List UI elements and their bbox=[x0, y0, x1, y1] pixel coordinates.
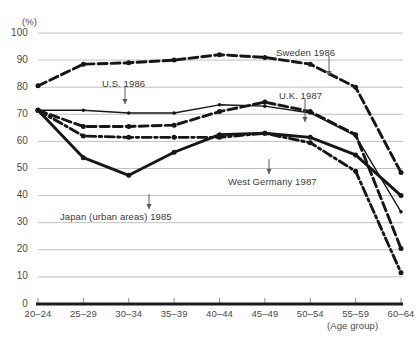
data-point-marker bbox=[399, 246, 404, 251]
data-point-marker bbox=[217, 132, 222, 137]
y-axis-tick-label: 70 bbox=[2, 108, 28, 119]
annotation-arrow-head bbox=[146, 204, 151, 209]
data-point-marker bbox=[399, 270, 404, 275]
data-point-marker bbox=[36, 108, 41, 113]
series-annotation-label: Japan (urban areas) 1985 bbox=[60, 211, 172, 222]
line-chart: (%) 0102030405060708090100 20–2425–2930–… bbox=[0, 0, 419, 342]
data-point-marker bbox=[217, 109, 222, 114]
data-point-marker bbox=[81, 133, 86, 138]
x-axis-tick-label: 45–49 bbox=[241, 308, 289, 319]
data-point-marker bbox=[217, 52, 222, 57]
x-axis-caption: (Age group) bbox=[327, 320, 378, 331]
data-point-marker bbox=[172, 123, 177, 128]
data-point-marker bbox=[308, 140, 313, 145]
x-axis-tick-label: 25–29 bbox=[59, 308, 107, 319]
annotation-arrow-head bbox=[266, 169, 271, 174]
data-point-marker bbox=[308, 62, 313, 67]
data-point-marker bbox=[308, 135, 313, 140]
data-point-marker bbox=[172, 58, 177, 63]
data-point-marker bbox=[172, 111, 176, 115]
data-point-marker bbox=[262, 55, 267, 60]
gridlines bbox=[38, 33, 403, 277]
data-point-marker bbox=[81, 62, 86, 67]
data-point-marker bbox=[353, 85, 358, 90]
series-line bbox=[38, 110, 401, 195]
y-axis-tick-label: 20 bbox=[2, 243, 28, 254]
annotation-arrow-head bbox=[122, 99, 127, 104]
data-point-marker bbox=[172, 150, 177, 155]
data-point-marker bbox=[218, 103, 222, 107]
x-axis-tick-label: 40–44 bbox=[196, 308, 244, 319]
x-axis-tick-label: 60–64 bbox=[377, 308, 419, 319]
x-axis-tick-label: 20–24 bbox=[14, 308, 62, 319]
data-point-marker bbox=[127, 111, 131, 115]
data-point-marker bbox=[82, 108, 86, 112]
data-point-marker bbox=[36, 83, 41, 88]
data-point-marker bbox=[263, 104, 267, 108]
series-annotation-label: U.K. 1987 bbox=[279, 90, 322, 101]
plot-area bbox=[0, 0, 419, 342]
y-axis-tick-label: 30 bbox=[2, 216, 28, 227]
data-point-marker bbox=[126, 173, 131, 178]
data-point-marker bbox=[81, 155, 86, 160]
data-point-marker bbox=[126, 60, 131, 65]
series-annotation-label: U.S. 1986 bbox=[102, 78, 145, 89]
x-axis-tick-label: 50–54 bbox=[286, 308, 334, 319]
y-axis-tick-label: 10 bbox=[2, 270, 28, 281]
y-axis-tick-label: 60 bbox=[2, 135, 28, 146]
y-axis-tick-label: 50 bbox=[2, 162, 28, 173]
data-point-marker bbox=[126, 124, 131, 129]
y-axis-tick-label: 100 bbox=[2, 27, 28, 38]
series-annotation-label: Sweden 1986 bbox=[276, 47, 335, 58]
series-annotation-label: West Germany 1987 bbox=[228, 176, 317, 187]
data-point-marker bbox=[262, 100, 267, 105]
data-point-marker bbox=[353, 169, 358, 174]
x-axis-tick-label: 30–34 bbox=[105, 308, 153, 319]
y-axis-tick-label: 0 bbox=[2, 298, 28, 309]
data-point-marker bbox=[172, 135, 177, 140]
data-point-marker bbox=[262, 131, 267, 136]
y-axis-tick-label: 40 bbox=[2, 189, 28, 200]
data-point-marker bbox=[81, 124, 86, 129]
data-series-group bbox=[36, 52, 404, 275]
data-point-marker bbox=[126, 135, 131, 140]
annotation-arrow-head bbox=[302, 117, 307, 122]
data-point-marker bbox=[399, 193, 404, 198]
x-axis-tick-label: 55–59 bbox=[332, 308, 380, 319]
series-line bbox=[38, 102, 401, 248]
data-point-marker bbox=[353, 152, 358, 157]
y-axis-tick-label: 80 bbox=[2, 81, 28, 92]
y-axis-tick-label: 90 bbox=[2, 54, 28, 65]
x-axis-tick-label: 35–39 bbox=[150, 308, 198, 319]
data-point-marker bbox=[399, 210, 403, 214]
data-point-marker bbox=[399, 170, 404, 175]
data-point-marker bbox=[353, 132, 358, 137]
data-point-marker bbox=[308, 109, 313, 114]
